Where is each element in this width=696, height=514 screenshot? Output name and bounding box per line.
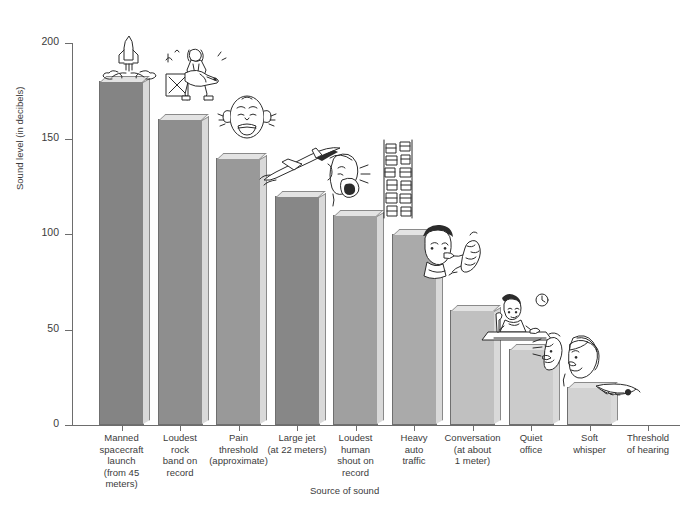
bar-top-face	[276, 191, 326, 197]
x-label-line: Threshold	[612, 432, 684, 444]
x-label-line: record	[144, 467, 216, 479]
bar-top-face	[334, 210, 384, 216]
x-label-line: 1 meter)	[437, 455, 509, 467]
bar-top-face	[393, 229, 443, 235]
y-axis-tick-label: 100	[41, 226, 59, 238]
y-axis-tick-mark	[65, 139, 73, 140]
sound-level-bar-chart: 200150100500 Sound level (in decibels) S…	[0, 0, 696, 514]
bar-conversation	[450, 310, 495, 425]
bar-side-face	[436, 231, 443, 424]
bar-side-face	[260, 155, 267, 424]
x-label-threshold-of-hearing: Thresholdof hearing	[612, 432, 684, 455]
x-label-line: of hearing	[612, 444, 684, 456]
bar-top-face	[159, 114, 209, 120]
y-axis-tick-mark	[65, 234, 73, 235]
bar-side-face	[494, 307, 501, 424]
bar-loudest-human-shout	[333, 215, 378, 425]
bar-pain-threshold	[216, 158, 261, 425]
x-axis-tick	[356, 425, 357, 431]
traffic-jam-doodle	[372, 140, 424, 218]
x-axis-tick	[648, 425, 649, 431]
y-axis-tick-mark	[65, 43, 73, 44]
x-axis-title: Source of sound	[310, 485, 379, 496]
x-axis-tick	[531, 425, 532, 431]
y-axis-tick: 150	[65, 139, 73, 140]
bar-quiet-office	[509, 349, 554, 425]
x-label-line: meters)	[86, 478, 158, 490]
bar-top-face	[100, 76, 150, 82]
grimacing-face-doodle	[216, 90, 278, 146]
y-axis-title: Sound level (in decibels)	[14, 86, 25, 190]
bar-loudest-rock-band	[158, 119, 203, 425]
y-axis-tick-mark	[65, 330, 73, 331]
x-axis-tick	[239, 425, 240, 431]
bar-soft-whisper	[567, 387, 612, 425]
bar-side-face	[611, 384, 618, 424]
y-axis-tick: 100	[65, 234, 73, 235]
rock-guitarist-doodle	[160, 44, 226, 102]
y-axis-tick-label: 50	[47, 322, 59, 334]
bar-heavy-auto-traffic	[392, 234, 437, 425]
x-label-line: (approximate)	[203, 455, 275, 467]
x-axis-tick	[180, 425, 181, 431]
bar-manned-spacecraft-launch	[99, 81, 144, 425]
x-label-line: record	[320, 467, 392, 479]
x-axis-tick	[590, 425, 591, 431]
bar-top-face	[510, 344, 560, 350]
bar-side-face	[143, 78, 150, 424]
x-axis-tick	[122, 425, 123, 431]
bar-top-face	[217, 153, 267, 159]
bar-side-face	[319, 193, 326, 424]
x-axis-tick	[414, 425, 415, 431]
shouting-face-doodle	[322, 150, 370, 208]
y-axis-tick: 50	[65, 330, 73, 331]
y-axis-tick-label: 0	[53, 417, 59, 429]
y-axis-tick-label: 150	[41, 131, 59, 143]
bar-side-face	[553, 346, 560, 424]
bar-side-face	[377, 212, 384, 424]
jet-airplane-doodle	[258, 142, 344, 188]
y-axis-tick-label: 200	[41, 35, 59, 47]
rocket-launch-doodle	[96, 34, 168, 78]
bar-large-jet	[275, 196, 320, 425]
x-axis-tick	[473, 425, 474, 431]
x-axis-tick	[297, 425, 298, 431]
bar-side-face	[202, 116, 209, 424]
y-axis-tick: 200	[65, 43, 73, 44]
y-axis-tick: 0	[65, 425, 73, 426]
bar-top-face	[451, 305, 501, 311]
bar-top-face	[568, 382, 618, 388]
y-axis-tick-mark	[65, 425, 73, 426]
